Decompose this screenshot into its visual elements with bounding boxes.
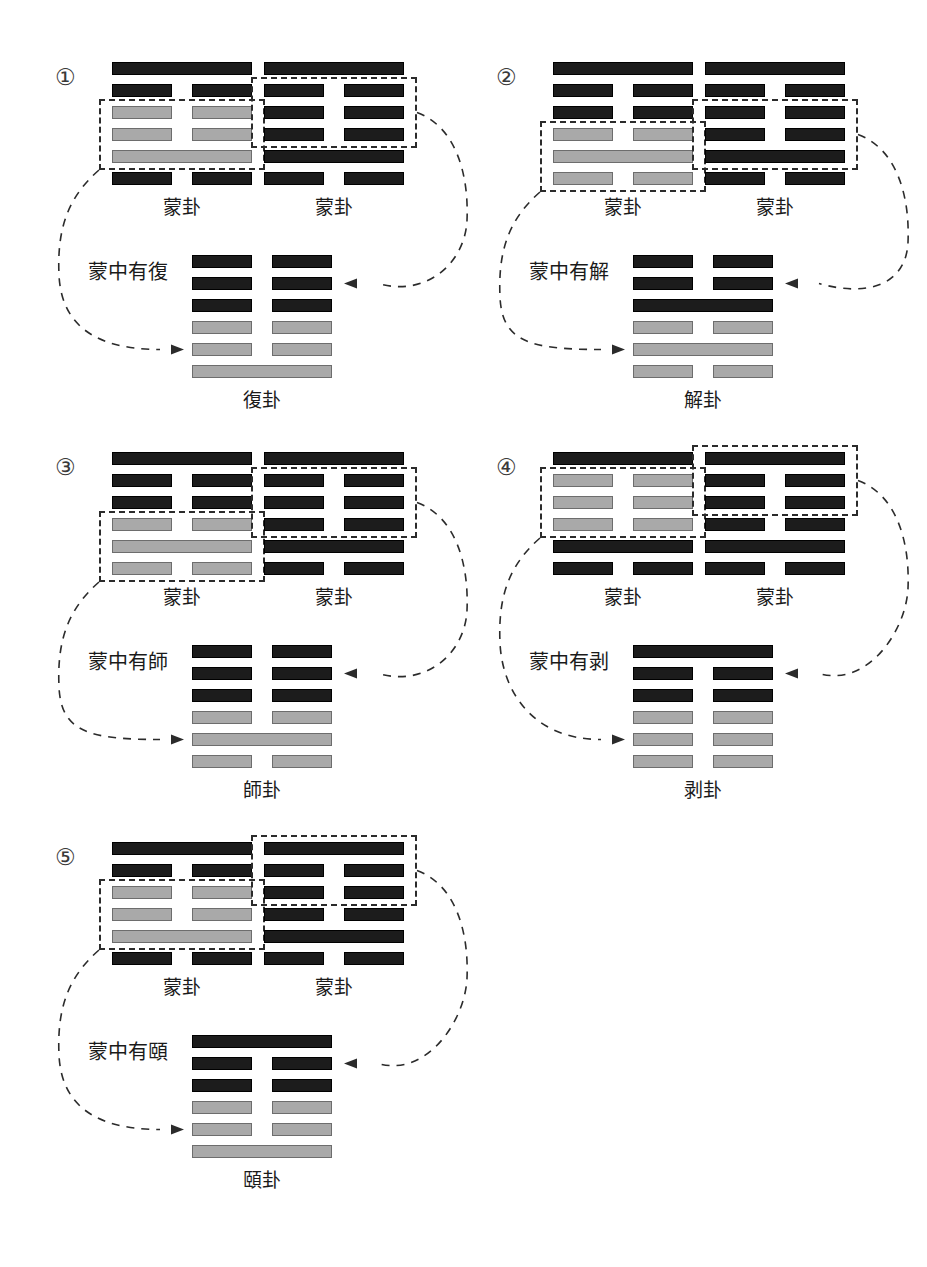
line-segment-right [785,562,845,575]
line-segment-left [192,255,252,268]
line-segment-left [705,496,765,509]
hexagram-line [192,365,332,378]
source-hexagram-left: 蒙卦 [553,452,693,609]
line-segment-left [192,1101,252,1114]
hexagram-line [112,540,252,553]
line-segment-right [344,128,404,141]
line-segment-left [112,864,172,877]
line-segment-right [344,908,404,921]
line-segment-right [272,645,332,658]
hexagram-line [264,84,404,97]
hexagram-line [192,645,332,658]
source-hexagram-left-label: 蒙卦 [553,192,693,219]
line-segment-right [272,1079,332,1092]
hexagram-line [112,128,252,141]
line-segment-right [272,343,332,356]
result-hexagram-label: 剥卦 [633,775,773,802]
source-hexagram-left-lines [553,62,693,185]
result-hexagram: 頤卦 [192,1035,332,1192]
line-segment-left [264,886,324,899]
hexagram-line [192,1123,332,1136]
line-segment-right [785,172,845,185]
line-segment-left [633,321,693,334]
hexagram-line [112,908,252,921]
hexagram-group: ④蒙卦蒙卦蒙中有剥剥卦 [441,390,882,780]
hexagram-line [264,474,404,487]
result-hexagram: 師卦 [192,645,332,802]
hexagram-line [192,667,332,680]
hexagram-line [192,255,332,268]
line-segment-right [633,474,693,487]
hexagram-line [264,518,404,531]
line-segment [192,1035,332,1048]
line-segment-right [272,1123,332,1136]
line-segment-right [344,562,404,575]
source-hexagram-right-lines [705,62,845,185]
hexagram-line [112,172,252,185]
line-segment [633,343,773,356]
line-segment [112,930,252,943]
line-segment-left [192,755,252,768]
hexagram-line [264,908,404,921]
line-segment-right [713,711,773,724]
hexagram-line [264,842,404,855]
relation-phrase: 蒙中有復 [88,256,168,285]
hexagram-line [553,452,693,465]
hexagram-line [112,886,252,899]
line-segment-right [633,128,693,141]
line-segment-right [344,518,404,531]
line-segment-right [713,255,773,268]
line-segment-left [112,562,172,575]
line-segment-left [112,474,172,487]
hexagram-line [264,930,404,943]
line-segment-right [192,172,252,185]
source-hexagram-right-lines [264,452,404,575]
hexagram-line [705,540,845,553]
hexagram-line [192,1079,332,1092]
source-hexagram-right: 蒙卦 [705,62,845,219]
source-hexagram-right-lines [264,62,404,185]
line-segment-left [633,755,693,768]
line-segment-left [553,106,613,119]
source-hexagram-right: 蒙卦 [264,842,404,999]
line-segment-left [112,886,172,899]
hexagram-line [112,452,252,465]
hexagram-line [112,496,252,509]
hexagram-line [112,518,252,531]
hexagram-line [553,128,693,141]
hexagram-line [633,755,773,768]
hexagram-line [112,864,252,877]
source-hexagram-right-label: 蒙卦 [264,192,404,219]
hexagram-line [112,474,252,487]
line-segment-right [344,864,404,877]
line-segment [705,150,845,163]
relation-phrase: 蒙中有剥 [529,646,609,675]
line-segment-left [553,496,613,509]
line-segment-right [785,128,845,141]
line-segment-right [192,128,252,141]
line-segment-right [272,299,332,312]
line-segment-left [553,518,613,531]
result-hexagram-lines [192,255,332,378]
line-segment-left [192,343,252,356]
line-segment [192,365,332,378]
hexagram-line [705,150,845,163]
line-segment-left [192,321,252,334]
line-segment-right [633,172,693,185]
group-number: ① [55,66,76,89]
hexagram-line [553,518,693,531]
line-segment [705,62,845,75]
line-segment-right [713,755,773,768]
line-segment-left [264,496,324,509]
line-segment-left [264,128,324,141]
line-segment [264,62,404,75]
hexagram-line [553,150,693,163]
line-segment-right [785,474,845,487]
line-segment [264,540,404,553]
source-hexagram-left-lines [112,62,252,185]
line-segment-right [713,277,773,290]
line-segment [264,842,404,855]
line-segment [633,645,773,658]
line-segment-right [192,518,252,531]
line-segment-right [344,106,404,119]
